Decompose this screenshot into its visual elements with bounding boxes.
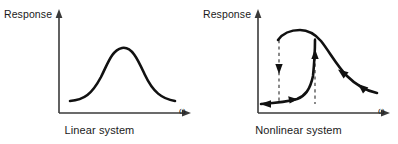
linear-system-caption: Linear system <box>0 124 199 136</box>
lower-branch-left-arrowhead <box>260 100 271 107</box>
linear-y-axis-arrowhead <box>56 9 63 18</box>
jump-down-arrowhead <box>275 64 282 74</box>
nonlinear-lower-branch <box>261 40 315 104</box>
linear-y-axis-label: Response <box>4 8 52 20</box>
lower-branch-right-arrowhead <box>288 96 298 103</box>
nonlinear-system-caption: Nonlinear system <box>199 124 398 136</box>
nonlinear-upper-branch <box>278 30 377 93</box>
figure-container: Response ω Linear system <box>0 0 398 144</box>
panel-linear-system: Response ω Linear system <box>0 0 199 144</box>
panel-nonlinear-system: Response ω Nonlinear system <box>199 0 398 144</box>
linear-x-axis-label: ω <box>179 105 186 116</box>
upper-branch-arrowhead-2 <box>358 84 368 93</box>
linear-system-plot <box>0 0 199 144</box>
jump-up-arrowhead <box>311 49 318 59</box>
linear-response-curve <box>70 48 175 101</box>
nonlinear-system-plot <box>199 0 398 144</box>
nonlinear-y-axis-arrowhead <box>255 9 262 18</box>
nonlinear-y-axis-label: Response <box>203 8 251 20</box>
nonlinear-x-axis-label: ω <box>378 105 385 116</box>
